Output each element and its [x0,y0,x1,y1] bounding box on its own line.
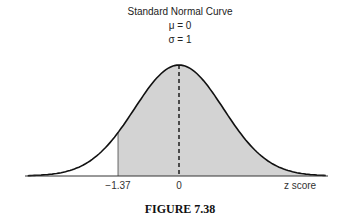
figure-caption: FIGURE 7.38 [0,202,348,217]
shaded-area [118,65,326,176]
x-axis-label: z score [284,180,316,191]
tick-label-zero: 0 [176,180,182,191]
tick-label-neg: −1.37 [105,180,130,191]
